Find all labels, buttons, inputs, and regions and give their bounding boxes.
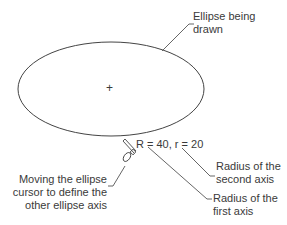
cursor-label: Moving the ellipse cursor to define the … [4,173,107,212]
cursor-label-line2: cursor to define the [4,186,107,199]
ellipse-cursor-icon [122,139,136,163]
first-axis-label-line1: Radius of the [213,192,278,205]
first-axis-label: Radius of the first axis [213,192,278,218]
ellipse-label: Ellipse being drawn [193,10,255,36]
second-axis-label-line2: second axis [216,173,281,186]
first-axis-leader-line [148,147,212,199]
cursor-leader-line [108,166,125,186]
ellipse-leader-line [162,24,194,51]
second-axis-leader-line [182,148,215,176]
cursor-label-line1: Moving the ellipse [4,173,107,186]
ellipse-label-line2: drawn [193,23,255,36]
center-marker: + [106,82,113,95]
radius-readout: R = 40, r = 20 [136,138,203,151]
first-axis-label-line2: first axis [213,205,278,218]
cursor-label-line3: other ellipse axis [4,199,107,212]
second-axis-label: Radius of the second axis [216,160,281,186]
ellipse-diagram: Ellipse being drawn + R = 40, r = 20 Rad… [0,0,287,225]
second-axis-label-line1: Radius of the [216,160,281,173]
ellipse-label-line1: Ellipse being [193,10,255,23]
